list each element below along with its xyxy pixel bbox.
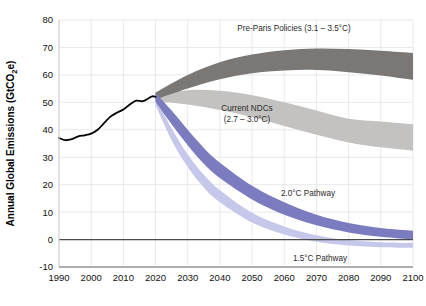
y-tick-10: 10 bbox=[42, 207, 53, 218]
emissions-chart: -1001020304050607080 1990200020102020203… bbox=[0, 0, 426, 306]
x-tick-2070: 2070 bbox=[306, 272, 327, 283]
x-tick-labels: 1990200020102020203020402050206020702080… bbox=[48, 272, 423, 283]
y-tick-0: 0 bbox=[48, 234, 53, 245]
x-tick-1990: 1990 bbox=[48, 272, 69, 283]
x-tick-2100: 2100 bbox=[402, 272, 423, 283]
y-tick-30: 30 bbox=[42, 152, 53, 163]
y-axis-title: Annual Global Emissions (GtCO2e) bbox=[5, 61, 19, 227]
chart-canvas: -1001020304050607080 1990200020102020203… bbox=[0, 0, 426, 306]
x-tick-2050: 2050 bbox=[242, 272, 263, 283]
x-tick-2090: 2090 bbox=[370, 272, 391, 283]
x-tick-2010: 2010 bbox=[113, 272, 134, 283]
x-tick-2060: 2060 bbox=[274, 272, 295, 283]
y-axis-title-text: Annual Global Emissions (GtCO2e) bbox=[5, 61, 19, 227]
y-tick-20: 20 bbox=[42, 179, 53, 190]
annotation-pathway-15c: 1.5°C Pathway bbox=[293, 254, 348, 263]
y-tick-50: 50 bbox=[42, 97, 53, 108]
y-tick--10: -10 bbox=[39, 261, 53, 272]
y-tick-labels: -1001020304050607080 bbox=[39, 14, 53, 272]
y-tick-40: 40 bbox=[42, 124, 53, 135]
x-tick-2040: 2040 bbox=[209, 272, 230, 283]
historical-line bbox=[59, 96, 156, 140]
x-tick-2080: 2080 bbox=[338, 272, 359, 283]
y-tick-60: 60 bbox=[42, 69, 53, 80]
y-tick-80: 80 bbox=[42, 14, 53, 25]
y-tick-70: 70 bbox=[42, 42, 53, 53]
x-tick-2020: 2020 bbox=[145, 272, 166, 283]
x-tick-2000: 2000 bbox=[81, 272, 102, 283]
x-tick-2030: 2030 bbox=[177, 272, 198, 283]
annotation-pathway-2c: 2.0°C Pathway bbox=[281, 189, 336, 198]
annotation-pre-paris: Pre-Paris Policies (3.1 – 3.5°C) bbox=[237, 24, 351, 33]
